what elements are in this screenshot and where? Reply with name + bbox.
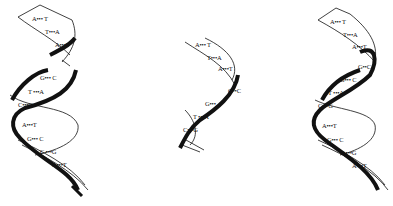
base-pair-label: A•••T	[352, 162, 367, 169]
base-pair-label: A••• T	[330, 18, 346, 25]
base-pair-label: C •••G	[340, 149, 356, 156]
base-pair-label: G••• C	[340, 76, 356, 83]
base-pair-label: T •••A	[328, 89, 344, 96]
base-pair-label: G••• C	[327, 136, 343, 143]
base-pair-label: C•••G	[318, 102, 333, 109]
base-pair-label: T•••A	[343, 31, 358, 38]
base-pair-label: A•••T	[352, 43, 367, 50]
base-pair-label: G••C	[358, 63, 371, 70]
base-pair-label: A•••T	[322, 122, 337, 129]
right-helix-pairs: A••• T T•••A A•••T G••C G••• C T •••A C•…	[0, 0, 393, 206]
